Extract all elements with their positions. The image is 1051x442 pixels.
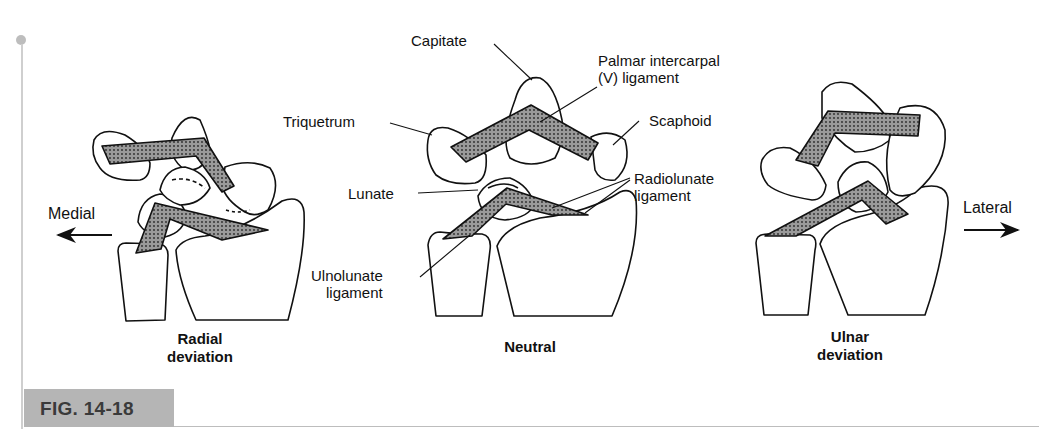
label-ulnolunate-ligament: Ulnolunate ligament xyxy=(311,267,383,301)
caption-ulnar-deviation: Ulnar deviation xyxy=(800,328,900,364)
label-capitate: Capitate xyxy=(411,32,467,49)
label-radiolunate-ligament: Radiolunate ligament xyxy=(634,170,714,204)
label-scaphoid: Scaphoid xyxy=(649,112,712,129)
wrist-illustration xyxy=(0,0,1051,442)
caption-neutral: Neutral xyxy=(490,338,570,356)
panel-radial-deviation xyxy=(93,117,304,321)
bottom-rule xyxy=(174,426,1039,427)
label-triquetrum: Triquetrum xyxy=(283,113,355,130)
panel-neutral xyxy=(427,78,636,316)
label-lateral: Lateral xyxy=(963,199,1012,217)
panel-ulnar-deviation xyxy=(756,82,948,315)
caption-radial-deviation: Radial deviation xyxy=(150,330,250,366)
label-palmar-intercarpal-ligament: Palmar intercarpal (V) ligament xyxy=(598,52,720,86)
figure-number-label: FIG. 14-18 xyxy=(40,398,134,420)
label-lunate: Lunate xyxy=(348,185,394,202)
label-medial: Medial xyxy=(48,205,95,223)
figure-14-18: Capitate Palmar intercarpal (V) ligament… xyxy=(0,0,1051,442)
